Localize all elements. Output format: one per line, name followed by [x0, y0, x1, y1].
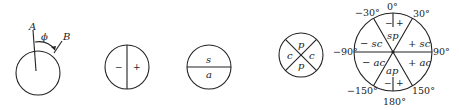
sign-top-minus: − [385, 18, 393, 28]
label-c-right: c [309, 50, 315, 61]
sector-neg-sc: − sc [360, 38, 383, 49]
angle-150: 150° [412, 85, 435, 96]
sector-pos-sc: + sc [408, 38, 431, 49]
angle-neg90: −90° [333, 46, 358, 57]
figure-angle-wheel: 0° −30° 30° −90° 90° −150° 150° 180° sp … [333, 1, 450, 107]
label-b: B [62, 31, 70, 42]
label-s: s [206, 54, 211, 65]
label-p-top: p [298, 39, 305, 50]
plus-label: + [133, 62, 141, 72]
angle-30: 30° [413, 8, 430, 19]
sign-bottom-minus: − [384, 78, 392, 88]
figure-angle-phi: A ϕ B [16, 21, 70, 95]
sector-pos-ac: + ac [408, 57, 432, 68]
angle-neg30: −30° [355, 7, 380, 18]
minus-label: − [115, 62, 123, 72]
figure-s-a-split: s a [187, 45, 231, 89]
sign-bottom-plus: + [396, 78, 404, 88]
sector-neg-ac: − ac [362, 57, 386, 68]
label-p-bottom: p [298, 60, 305, 71]
label-a-lower: a [206, 69, 212, 80]
figure-p-c-split: p p c c [279, 33, 323, 77]
angle-0: 0° [387, 1, 398, 12]
angle-neg150: −150° [347, 85, 378, 96]
angle-arc [35, 42, 55, 50]
sign-top-plus: + [396, 18, 404, 28]
figure-sign-split: − + [105, 45, 149, 89]
angle-90: 90° [433, 46, 450, 57]
circle-1 [16, 51, 60, 95]
angle-180: 180° [383, 96, 406, 107]
line-a [33, 30, 36, 71]
label-c-left: c [287, 50, 293, 61]
center-dot [392, 51, 395, 54]
label-a: A [28, 21, 36, 32]
sector-ap: ap [386, 65, 399, 76]
angle-convention-diagram: A ϕ B − + s a p p c c [0, 0, 459, 110]
sector-sp: sp [387, 30, 399, 41]
label-phi: ϕ [41, 31, 48, 42]
